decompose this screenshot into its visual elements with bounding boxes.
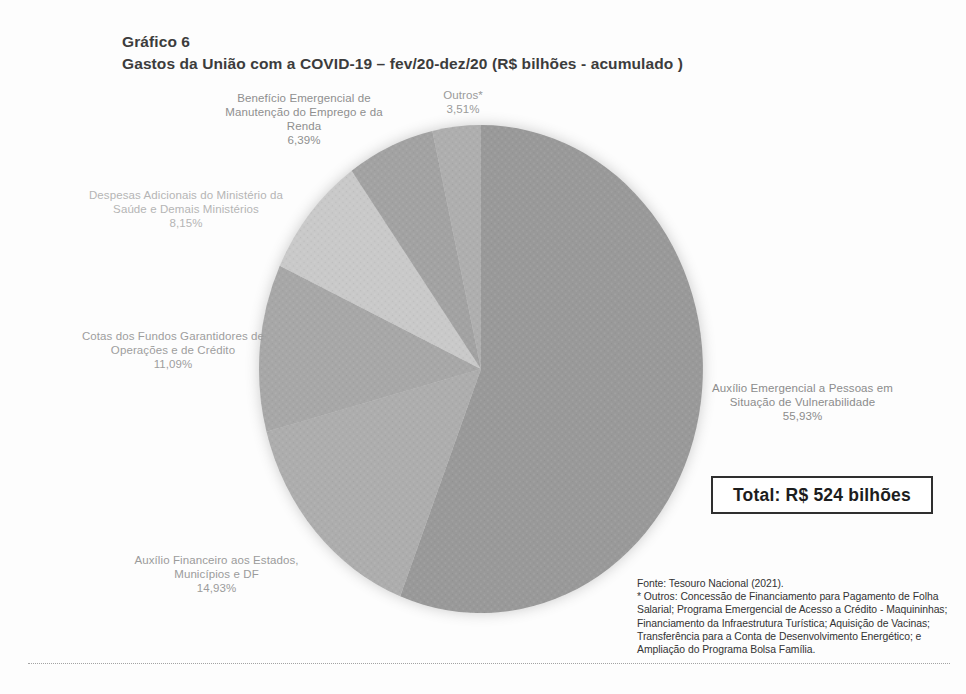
pie-label-despesas-adicionais-pct: 8,15% — [85, 216, 287, 230]
pie-scan-texture-overlay — [259, 125, 703, 613]
pie-label-outros: Outros* 3,51% — [420, 88, 506, 116]
pie-label-auxilio-financeiro-estados-pct: 14,93% — [118, 581, 315, 595]
pie-label-cotas-fundos-pct: 11,09% — [62, 357, 284, 371]
pie-label-outros-name: Outros* — [443, 89, 483, 101]
total-box: Total: R$ 524 bilhões — [711, 476, 933, 514]
footnote-outros-note: * Outros: Concessão de Financiamento par… — [637, 590, 957, 656]
pie-label-despesas-adicionais: Despesas Adicionais do Ministério da Saú… — [85, 188, 287, 230]
footnote-source: Fonte: Tesouro Nacional (2021). — [637, 577, 957, 590]
bottom-dotted-divider — [28, 663, 950, 664]
pie-label-auxilio-emergencial-pct: 55,93% — [695, 409, 910, 423]
total-label: Total: R$ 524 bilhões — [733, 485, 911, 506]
pie-label-auxilio-financeiro-estados: Auxílio Financeiro aos Estados, Municípi… — [118, 553, 315, 595]
pie-label-auxilio-emergencial-name: Auxílio Emergencial a Pessoas em Situaçã… — [712, 382, 893, 408]
pie-label-beneficio-emergencial-pct: 6,39% — [216, 133, 392, 147]
footnote: Fonte: Tesouro Nacional (2021). * Outros… — [637, 577, 957, 656]
pie-label-outros-pct: 3,51% — [420, 102, 506, 116]
pie-label-beneficio-emergencial: Benefício Emergencial de Manutenção do E… — [216, 91, 392, 147]
pie-label-despesas-adicionais-name: Despesas Adicionais do Ministério da Saú… — [89, 189, 283, 215]
pie-label-cotas-fundos-name: Cotas dos Fundos Garantidores de Operaçõ… — [82, 330, 264, 356]
pie-label-auxilio-financeiro-estados-name: Auxílio Financeiro aos Estados, Municípi… — [134, 554, 298, 580]
pie-label-cotas-fundos: Cotas dos Fundos Garantidores de Operaçõ… — [62, 329, 284, 371]
pie-label-beneficio-emergencial-name: Benefício Emergencial de Manutenção do E… — [225, 92, 382, 132]
pie-label-auxilio-emergencial: Auxílio Emergencial a Pessoas em Situaçã… — [695, 381, 910, 423]
